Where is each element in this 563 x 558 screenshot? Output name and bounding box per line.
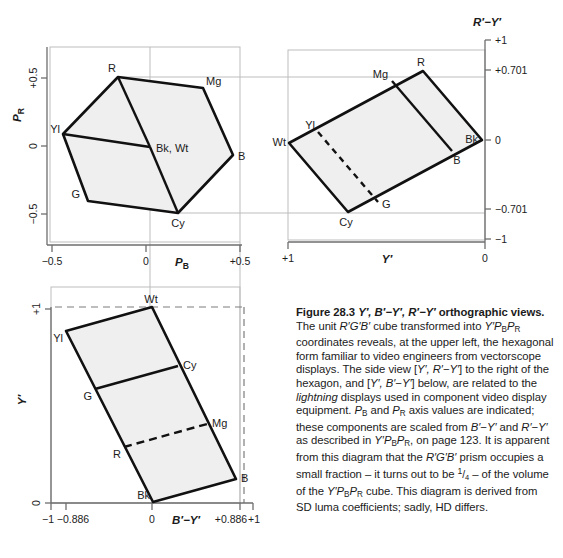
by-label-Yl: Yl (53, 332, 63, 344)
by-xtick-label-4: +1 (248, 513, 260, 525)
vs-label-G: G (71, 188, 80, 200)
vs-label-Mg: Mg (206, 75, 221, 87)
vs-ylabel: PR (11, 107, 26, 122)
panel-side-view-ry: R Mg Yl Wt Cy G B Bk +1 +0.701 0 −0.701 … (273, 16, 528, 265)
panel-vectorscope: R Mg B Cy G Yl Bk, Wt +0.5 0 −0.5 −0.5 0… (11, 47, 251, 271)
ry-ytick-label-3: −0.701 (495, 203, 528, 215)
vs-label-Cy: Cy (171, 217, 185, 229)
by-ylabel: Y′ (16, 394, 28, 406)
by-label-Cy: Cy (183, 359, 197, 371)
by-prism-outline (66, 307, 236, 502)
ry-prism-outline (289, 71, 482, 212)
ry-ylabel: R′−Y′ (473, 16, 502, 28)
ry-ytick-label-2: 0 (495, 134, 501, 146)
vs-label-Yl: Yl (50, 123, 60, 135)
ry-xtick-label-0: +1 (282, 252, 294, 264)
ry-ytick-label-0: +1 (495, 34, 507, 46)
vs-xlabel: PB (175, 256, 189, 271)
figure-caption: Figure 28.3 Y′, B′−Y′, R′−Y′ orthographi… (296, 306, 554, 515)
ry-ytick-label-1: +0.701 (495, 64, 528, 76)
ry-xlabel: Y′ (382, 253, 394, 265)
vectorscope-hexagon (63, 77, 233, 213)
ry-ytick-label-4: −1 (495, 233, 507, 245)
ry-xtick-label-1: 0 (482, 252, 488, 264)
vs-xtick-label-1: 0 (143, 255, 149, 267)
vs-label-BkWt: Bk, Wt (156, 142, 188, 154)
ry-label-Mg: Mg (373, 68, 388, 80)
by-prism (66, 307, 236, 502)
by-xtick-label-1: −0.886 (57, 513, 90, 525)
ry-prism (289, 71, 482, 212)
ry-label-Bk: Bk (465, 133, 478, 145)
vs-label-R: R (108, 62, 116, 74)
by-ytick-label-0: +1 (30, 303, 42, 315)
by-ytick-label-1: 0 (30, 500, 42, 506)
vs-xtick-label-2: +0.5 (230, 255, 251, 267)
by-xtick-label-2: 0 (149, 513, 155, 525)
ry-label-B: B (453, 154, 460, 166)
panel-side-view-by: Wt Yl Cy G Mg R B Bk +1 0 −1 −0.886 0 +0… (16, 293, 260, 526)
ry-label-R: R (417, 56, 425, 68)
by-label-G: G (83, 390, 92, 402)
by-xtick-label-3: +0.886 (215, 513, 248, 525)
ry-label-Wt: Wt (273, 136, 286, 148)
vs-ytick-label-1: 0 (27, 143, 39, 149)
vs-ytick-label-2: −0.5 (27, 203, 39, 224)
by-label-Mg: Mg (212, 417, 227, 429)
ry-label-Yl: Yl (305, 119, 315, 131)
by-xtick-label-0: −1 (42, 513, 54, 525)
vs-ytick-label-0: +0.5 (27, 67, 39, 88)
by-xlabel: B′−Y′ (172, 514, 201, 526)
by-label-R: R (113, 448, 121, 460)
by-label-Bk: Bk (137, 489, 150, 501)
ry-label-G: G (382, 198, 391, 210)
by-label-Wt: Wt (144, 293, 157, 305)
ry-label-Cy: Cy (339, 216, 353, 228)
by-label-B: B (241, 472, 248, 484)
vs-label-B: B (238, 150, 245, 162)
vs-xtick-label-0: −0.5 (42, 255, 63, 267)
